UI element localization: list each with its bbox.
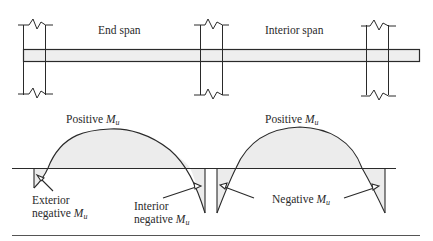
break-line-icon [194,19,229,29]
negative-moment-label: Negative Mu [272,193,330,209]
leader-line [222,186,254,198]
interior-span-label: Interior span [265,24,323,37]
leader-line [344,187,377,198]
end-span-label: End span [98,24,140,37]
positive-moment-label-interior-span: Positive Mu [265,113,319,129]
exterior-negative-moment-label: Exterior negative Mu [32,194,87,223]
break-line-icon [194,89,229,99]
interior-span-positive-moment-region [236,127,362,168]
interior-negative-moment-label: Interior negative Mu [134,200,189,229]
moment-diagram: End span Interior span Positive Mu Posit… [0,0,433,241]
beam-elevation [18,19,420,100]
beam [24,50,420,62]
positive-moment-label-end-span: Positive Mu [66,113,120,129]
leader-line [163,186,199,198]
